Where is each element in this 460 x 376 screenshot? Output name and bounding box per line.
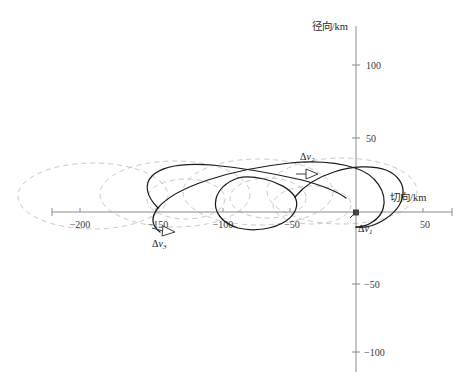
transfer-trajectory-group — [147, 162, 403, 232]
dv2-annotation: Δv2 — [296, 151, 318, 179]
impulse-annotations-group: Δv1 Δv2 Δv3 — [152, 151, 372, 251]
dv2-subscript: 2 — [311, 156, 315, 164]
reference-ellipse-left — [18, 163, 168, 229]
dv1-subscript: 1 — [369, 228, 373, 236]
tick-labels-group: −200 −150 −100 −50 50 100 50 −50 −100 — [70, 60, 430, 358]
trajectory-plot: −200 −150 −100 −50 50 100 50 −50 −100 径向… — [0, 0, 460, 376]
trajectory-mid-loop-close — [238, 177, 295, 197]
reference-ellipse-inner-left — [147, 179, 225, 219]
dv3-label: Δv3 — [152, 238, 167, 251]
x-tick-label--200: −200 — [70, 219, 91, 230]
relative-motion-trajectory-figure: −200 −150 −100 −50 50 100 50 −50 −100 径向… — [0, 0, 460, 376]
dv1-label: Δv1 — [358, 223, 372, 236]
y-tick-label-100: 100 — [366, 60, 381, 71]
dv2-arrow-icon — [306, 169, 318, 179]
y-tick-label--100: −100 — [364, 347, 385, 358]
dv3-arrow-icon — [162, 226, 175, 236]
reference-ellipse-mid — [183, 159, 333, 225]
dv3-subscript: 3 — [162, 243, 167, 251]
x-tick-label-50: 50 — [420, 219, 430, 230]
y-tick-label--50: −50 — [364, 279, 380, 290]
y-tick-label-50: 50 — [366, 133, 376, 144]
x-axis-title: 切向/km — [390, 191, 426, 203]
y-axis-title: 径向/km — [312, 20, 348, 32]
dv1-annotation: Δv1 — [350, 210, 372, 236]
